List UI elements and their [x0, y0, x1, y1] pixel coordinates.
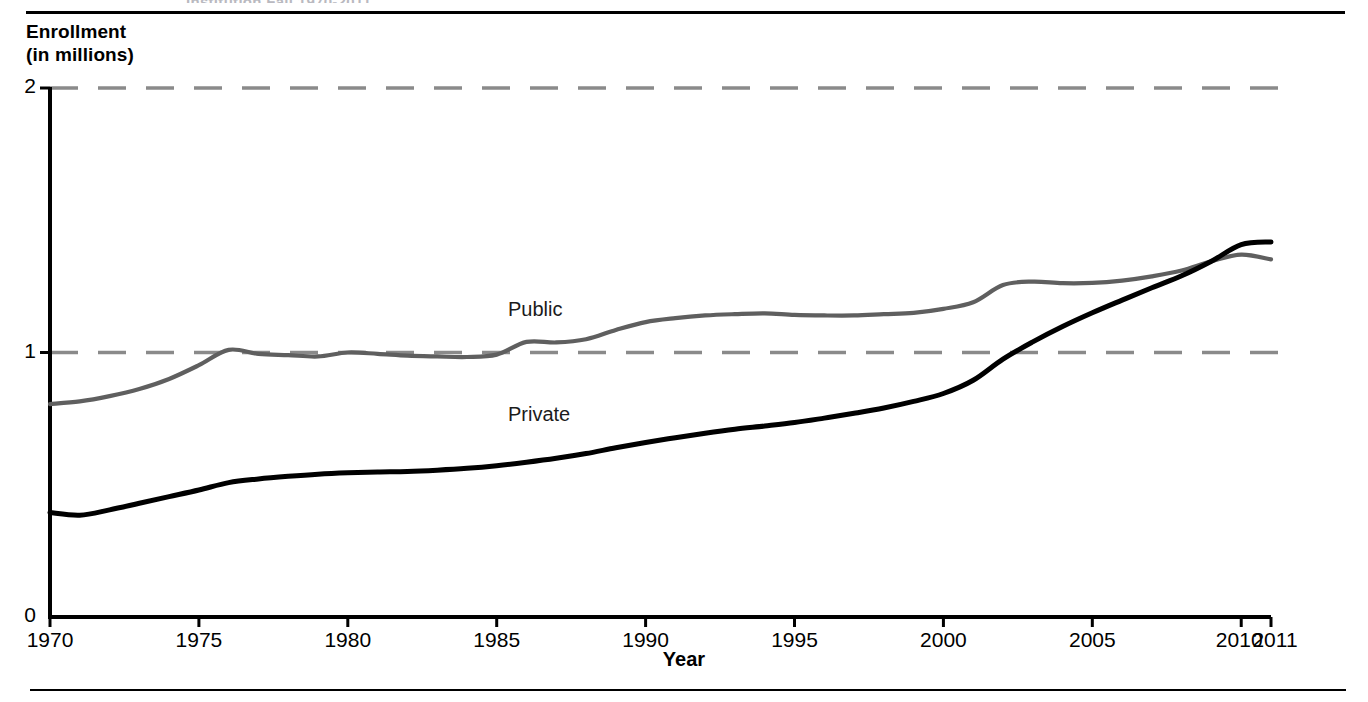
- x-tick-label-1990: 1990: [617, 628, 675, 652]
- x-tick-label-1970: 1970: [21, 628, 79, 652]
- bottom-divider-rule: [30, 689, 1346, 691]
- x-tick-label-1975: 1975: [170, 628, 228, 652]
- series-label-private: Private: [508, 403, 570, 426]
- y-tick-label-1: 1: [4, 339, 36, 363]
- y-tick-label-2: 2: [4, 74, 36, 98]
- x-tick-label-1995: 1995: [766, 628, 824, 652]
- x-tick-label-2011: 2011: [1246, 628, 1304, 652]
- enrollment-line-chart-figure: Institution Fall 1970-2011 Enrollment (i…: [0, 0, 1368, 702]
- series-label-public: Public: [508, 298, 562, 321]
- x-tick-label-2000: 2000: [914, 628, 972, 652]
- x-tick-label-2005: 2005: [1063, 628, 1121, 652]
- series-line-public: [50, 255, 1271, 404]
- x-tick-label-1985: 1985: [468, 628, 526, 652]
- y-tick-label-0: 0: [4, 603, 36, 627]
- x-tick-label-1980: 1980: [319, 628, 377, 652]
- chart-plot-area: [0, 0, 1368, 702]
